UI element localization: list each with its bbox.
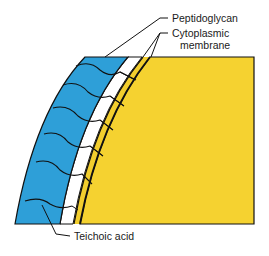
cytoplasmic-membrane-label-line2: membrane xyxy=(180,39,230,51)
teichoic-acid-label: Teichoic acid xyxy=(74,230,134,242)
peptidoglycan-label: Peptidoglycan xyxy=(172,12,238,24)
cell-wall-diagram: Peptidoglycan Cytoplasmic membrane Teich… xyxy=(0,0,269,256)
cytoplasmic-membrane-leader-b xyxy=(151,33,160,57)
cytoplasmic-membrane-label-line1: Cytoplasmic xyxy=(172,27,229,39)
